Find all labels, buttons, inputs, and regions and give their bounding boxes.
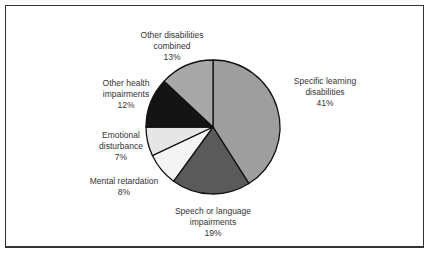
label-line: disturbance bbox=[99, 141, 143, 152]
label-pct: 8% bbox=[90, 187, 159, 198]
label-pct: 19% bbox=[175, 228, 251, 239]
label-emotional-disturbance: Emotional disturbance 7% bbox=[99, 130, 143, 163]
label-pct: 12% bbox=[103, 100, 150, 111]
label-other-health: Other health impairments 12% bbox=[103, 78, 150, 111]
label-line: disabilities bbox=[294, 87, 356, 98]
label-other-disabilities: Other disabilities combined 13% bbox=[141, 30, 204, 63]
label-line: Other health bbox=[103, 78, 150, 89]
label-mental-retardation: Mental retardation 8% bbox=[90, 176, 159, 198]
label-line: impairments bbox=[175, 217, 251, 228]
label-pct: 41% bbox=[294, 98, 356, 109]
label-line: Other disabilities bbox=[141, 30, 204, 41]
label-line: combined bbox=[141, 41, 204, 52]
label-line: Specific learning bbox=[294, 76, 356, 87]
label-line: impairments bbox=[103, 89, 150, 100]
label-specific-learning: Specific learning disabilities 41% bbox=[294, 76, 356, 109]
label-line: Mental retardation bbox=[90, 176, 159, 187]
label-pct: 13% bbox=[141, 52, 204, 63]
label-speech-language: Speech or language impairments 19% bbox=[175, 206, 251, 239]
label-line: Speech or language bbox=[175, 206, 251, 217]
label-pct: 7% bbox=[99, 152, 143, 163]
label-line: Emotional bbox=[99, 130, 143, 141]
